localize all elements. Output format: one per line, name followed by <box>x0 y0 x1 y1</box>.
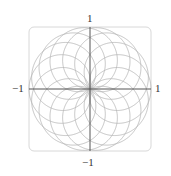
x-min-label: −1 <box>12 83 24 94</box>
y-min-label: −1 <box>82 157 94 168</box>
x-max-label: 1 <box>155 83 161 94</box>
polar-rose-plot <box>0 0 171 176</box>
y-max-label: 1 <box>87 13 93 24</box>
